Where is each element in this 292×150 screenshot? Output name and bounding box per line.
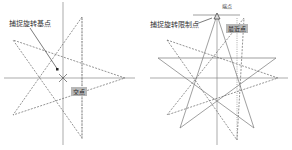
left-base-point-marker [56, 68, 59, 71]
right-dashed-star [167, 18, 278, 140]
left-dashed-star [13, 17, 125, 138]
right-diagram [150, 13, 288, 145]
left-callout-leader [30, 28, 58, 70]
right-top-marker: 端点 [222, 3, 232, 9]
left-snap-tag: 交点 [71, 87, 87, 96]
right-snap-tag: 最近点 [226, 24, 248, 33]
left-callout-label: 捕捉旋转基点 [9, 20, 51, 28]
right-snap-triangle [214, 13, 220, 19]
right-callout-label: 捕捉旋转限制点 [150, 21, 199, 29]
